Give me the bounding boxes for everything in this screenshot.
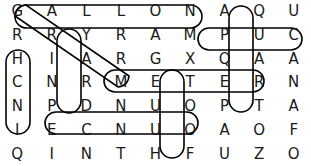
grid-cell: A (207, 0, 242, 24)
grid-cell: P (207, 95, 242, 119)
grid-cell: D (69, 95, 104, 119)
grid-cell: T (104, 142, 139, 166)
grid-cell: Z (242, 142, 277, 166)
grid-cell: C (69, 119, 104, 143)
grid-cell: Q (207, 47, 242, 71)
grid-cell: I (35, 142, 70, 166)
letter-grid: G A L L O N A Q U R R Y R A M P U C H I … (0, 0, 311, 166)
grid-cell: A (276, 47, 311, 71)
grid-cell: R (0, 24, 35, 48)
grid-cell: O (173, 95, 208, 119)
grid-cell: N (0, 95, 35, 119)
grid-cell: T (173, 71, 208, 95)
grid-cell: N (276, 71, 311, 95)
grid-cell: I (0, 119, 35, 143)
grid-cell: N (35, 71, 70, 95)
grid-cell: G (138, 47, 173, 71)
grid-cell: C (0, 71, 35, 95)
grid-cell: U (207, 142, 242, 166)
grid-cell: N (104, 95, 139, 119)
grid-cell: L (104, 0, 139, 24)
grid-cell: R (35, 24, 70, 48)
grid-cell: Q (242, 0, 277, 24)
grid-cell: R (104, 24, 139, 48)
grid-cell: Y (69, 24, 104, 48)
grid-cell: A (276, 95, 311, 119)
grid-cell: O (138, 0, 173, 24)
grid-cell: N (104, 119, 139, 143)
grid-cell: T (242, 95, 277, 119)
grid-cell: A (69, 47, 104, 71)
grid-cell: A (35, 0, 70, 24)
grid-cell: U (276, 0, 311, 24)
grid-cell: M (104, 71, 139, 95)
word-search-puzzle: G A L L O N A Q U R R Y R A M P U C H I … (0, 0, 311, 166)
grid-cell: R (104, 47, 139, 71)
grid-cell: E (138, 71, 173, 95)
grid-cell: F (276, 119, 311, 143)
grid-cell: Q (0, 142, 35, 166)
grid-cell: O (173, 119, 208, 143)
grid-cell: F (173, 142, 208, 166)
grid-cell: R (242, 71, 277, 95)
grid-cell: N (69, 142, 104, 166)
grid-cell: N (173, 0, 208, 24)
grid-cell: O (276, 142, 311, 166)
grid-cell: A (242, 47, 277, 71)
grid-cell: A (138, 24, 173, 48)
grid-cell: E (207, 71, 242, 95)
grid-cell: H (138, 142, 173, 166)
grid-cell: C (276, 24, 311, 48)
grid-cell: P (35, 95, 70, 119)
grid-cell: M (173, 24, 208, 48)
grid-cell: A (207, 119, 242, 143)
grid-cell: H (0, 47, 35, 71)
grid-cell: R (69, 71, 104, 95)
grid-cell: U (138, 95, 173, 119)
grid-cell: U (138, 119, 173, 143)
grid-cell: O (242, 119, 277, 143)
grid-cell: U (242, 24, 277, 48)
grid-cell: I (35, 47, 70, 71)
grid-cell: E (35, 119, 70, 143)
grid-cell: P (207, 24, 242, 48)
grid-cell: G (0, 0, 35, 24)
grid-cell: X (173, 47, 208, 71)
grid-cell: L (69, 0, 104, 24)
